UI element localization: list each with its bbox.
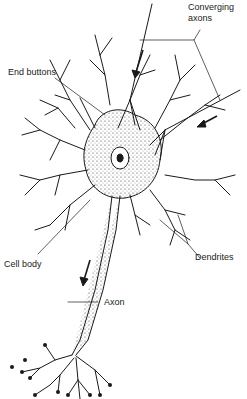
label-dendrites: Dendrites xyxy=(195,252,234,262)
label-axon: Axon xyxy=(104,297,125,307)
axon xyxy=(72,196,120,355)
label-end-buttons: End buttons xyxy=(8,67,56,77)
converging-axon-2 xyxy=(150,90,240,160)
label-converging-axons-1: Converging xyxy=(188,2,234,12)
arrow-icon xyxy=(84,260,90,280)
label-cell-body: Cell body xyxy=(4,259,42,269)
arrow-icon xyxy=(136,50,143,72)
label-converging-axons-2: axons xyxy=(188,13,212,23)
axon-terminals xyxy=(22,345,110,399)
neuron-drawing xyxy=(0,0,247,399)
